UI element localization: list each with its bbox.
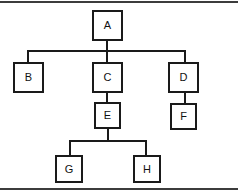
node-h[interactable]: H [133,155,161,183]
diagram-canvas: ABCDEFGH [0,0,238,195]
node-label-d: D [180,72,188,83]
node-label-g: G [65,164,74,175]
node-a[interactable]: A [92,10,123,41]
edge-segment-level3-bus [69,140,147,142]
node-label-h: H [143,164,151,175]
edge-segment-bus-to-c [106,50,108,62]
node-b[interactable]: B [13,62,44,93]
frame-top-border [0,1,238,3]
node-label-e: E [104,110,111,121]
node-label-b: B [25,72,32,83]
node-g[interactable]: G [55,155,83,183]
node-label-c: C [104,72,112,83]
edge-segment-bus-to-h [145,140,147,155]
node-e[interactable]: E [94,102,121,129]
node-f[interactable]: F [170,103,197,130]
edge-segment-bus-to-d [184,50,186,62]
node-c[interactable]: C [92,62,123,93]
edge-segment-bus-to-b [27,50,29,62]
edge-segment-bus-to-g [69,140,71,155]
node-label-a: A [104,20,111,31]
node-d[interactable]: D [168,62,199,93]
node-label-f: F [180,111,187,122]
frame-bottom-border [0,188,238,190]
